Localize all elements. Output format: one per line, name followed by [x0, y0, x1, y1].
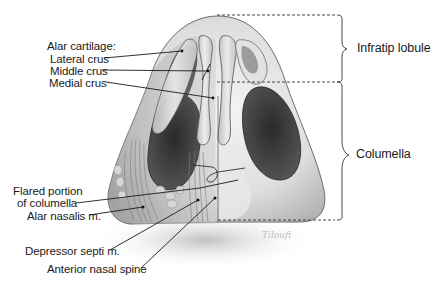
- label-middle-crus: Middle crus: [50, 66, 108, 78]
- label-flared-portion-line2: of columella: [17, 198, 77, 210]
- label-depressor-septi: Depressor septi m.: [25, 246, 120, 258]
- label-alar-cartilage: Alar cartilage:: [47, 41, 116, 53]
- label-anterior-nasal-spine: Anterior nasal spine: [47, 264, 147, 276]
- label-lateral-crus: Lateral crus: [50, 54, 109, 66]
- label-infratip-lobule: Infratip lobule: [357, 42, 431, 55]
- brace-columella: [337, 82, 349, 220]
- label-columella: Columella: [356, 148, 411, 161]
- artist-signature: Tiloufi: [262, 230, 291, 240]
- brace-infratip-lobule: [337, 15, 347, 82]
- label-flared-portion-line1: Flared portion: [13, 186, 83, 198]
- label-medial-crus: Medial crus: [49, 78, 107, 90]
- label-alar-nasalis: Alar nasalis m.: [27, 211, 101, 223]
